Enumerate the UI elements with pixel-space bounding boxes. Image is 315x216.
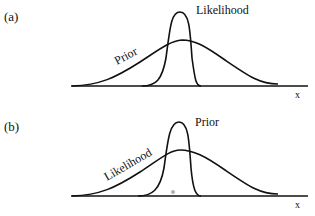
x-axis-label-b: x — [295, 199, 300, 210]
x-axis-label-a: x — [295, 89, 300, 100]
panel-b: (b) x Prior Likelihood — [4, 115, 308, 210]
broad-curve-label-b: Likelihood — [102, 145, 155, 183]
narrow-curve-label-b: Prior — [195, 115, 219, 129]
narrow-curve-label-a: Likelihood — [196, 3, 249, 17]
marker-dot — [171, 190, 175, 194]
bayes-diagram: (a) x Likelihood Prior (b) x Prior Likel… — [0, 0, 315, 216]
panel-a: (a) x Likelihood Prior — [4, 3, 308, 100]
panel-b-label: (b) — [4, 119, 19, 134]
narrow-curve-a — [142, 12, 201, 86]
broad-curve-a — [72, 40, 278, 86]
panel-a-label: (a) — [4, 9, 18, 24]
